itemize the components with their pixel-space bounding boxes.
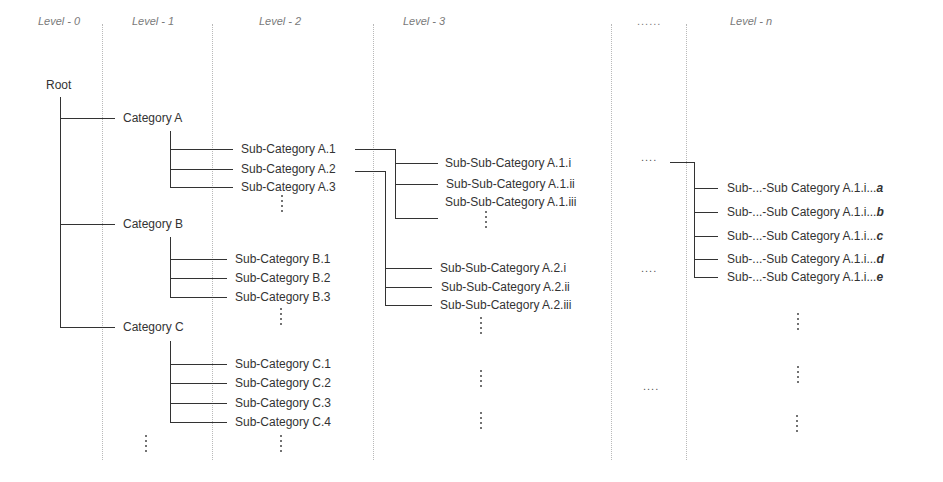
horizontal-ellipsis-1: .... — [641, 152, 657, 162]
vertical-ellipsis-icon — [796, 415, 799, 435]
subcategory-b1-node: Sub-Category B.1 — [235, 252, 330, 266]
subsubcategory-a1i-node: Sub-Sub-Category A.1.i — [445, 156, 571, 170]
vertical-ellipsis-icon — [797, 366, 800, 386]
subcategory-a3-node: Sub-Category A.3 — [241, 180, 336, 194]
subcategory-c1-node: Sub-Category C.1 — [235, 357, 331, 371]
subsubcategory-a1ii-node: Sub-Sub-Category A.1.ii — [446, 177, 575, 191]
horizontal-ellipsis-3: .... — [643, 381, 659, 391]
vertical-ellipsis-icon — [281, 195, 284, 215]
vertical-ellipsis-icon — [145, 435, 148, 455]
level-n-node-a: Sub-...-Sub Category A.1.i...a — [727, 181, 883, 195]
vertical-ellipsis-icon — [797, 313, 800, 333]
category-c-node: Category C — [123, 320, 184, 334]
vertical-ellipsis-icon — [485, 211, 488, 231]
level-n-node-d: Sub-...-Sub Category A.1.i...d — [727, 252, 884, 266]
vertical-ellipsis-icon — [280, 308, 283, 328]
category-a-node: Category A — [123, 111, 182, 125]
subcategory-c3-node: Sub-Category C.3 — [235, 396, 331, 410]
level-n-node-c: Sub-...-Sub Category A.1.i...c — [727, 229, 883, 243]
root-node: Root — [46, 78, 71, 92]
subcategory-a2-node: Sub-Category A.2 — [241, 162, 336, 176]
vertical-ellipsis-icon — [280, 435, 283, 455]
subcategory-c2-node: Sub-Category C.2 — [235, 376, 331, 390]
vertical-ellipsis-icon — [480, 370, 483, 390]
subsubcategory-a1iii-node: Sub-Sub-Category A.1.iii — [445, 195, 576, 209]
subsubcategory-a2ii-node: Sub-Sub-Category A.2.ii — [441, 280, 570, 294]
category-b-node: Category B — [123, 217, 183, 231]
subsubcategory-a2iii-node: Sub-Sub-Category A.2.iii — [440, 298, 571, 312]
subcategory-b3-node: Sub-Category B.3 — [235, 290, 330, 304]
subcategory-a1-node: Sub-Category A.1 — [241, 142, 336, 156]
horizontal-ellipsis-2: .... — [641, 263, 657, 273]
level-n-node-b: Sub-...-Sub Category A.1.i...b — [727, 205, 884, 219]
vertical-ellipsis-icon — [480, 317, 483, 337]
subsubcategory-a2i-node: Sub-Sub-Category A.2.i — [440, 261, 566, 275]
subcategory-c4-node: Sub-Category C.4 — [235, 415, 331, 429]
vertical-ellipsis-icon — [480, 412, 483, 432]
subcategory-b2-node: Sub-Category B.2 — [235, 271, 330, 285]
level-n-node-e: Sub-...-Sub Category A.1.i...e — [727, 270, 883, 284]
